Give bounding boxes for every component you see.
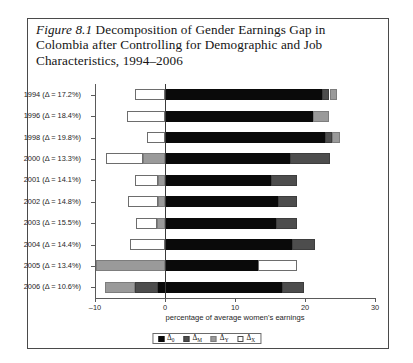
figure-caption: Figure 8.1 Decomposition of Gender Earni…: [36, 22, 366, 68]
figure-number: Figure 8.1: [36, 22, 92, 37]
figure-page: Figure 8.1 Decomposition of Gender Earni…: [0, 0, 413, 363]
